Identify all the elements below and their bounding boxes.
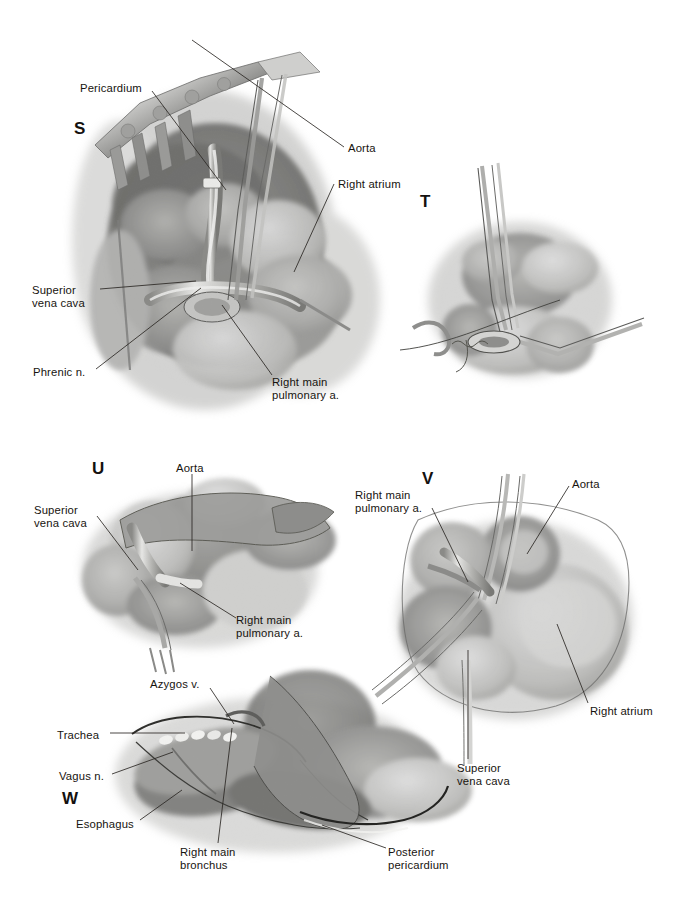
panel-letter-s: S	[74, 120, 86, 137]
label-posterior-pericardium: Posterior pericardium	[388, 846, 449, 872]
label-right-main-pulmonary-artery: Right main pulmonary a.	[355, 489, 422, 515]
label-pericardium: Pericardium	[80, 82, 142, 95]
panel-letter-w: W	[62, 790, 78, 807]
label-aorta: Aorta	[176, 462, 204, 475]
label-superior-vena-cava: Superior vena cava	[34, 504, 87, 530]
panel-t-artwork	[400, 163, 644, 378]
panel-u-artwork	[82, 478, 336, 674]
panel-w-artwork	[115, 670, 472, 853]
label-trachea: Trachea	[57, 729, 99, 742]
label-right-atrium: Right atrium	[338, 178, 401, 191]
label-azygos-vein: Azygos v.	[150, 678, 199, 691]
label-esophagus: Esophagus	[76, 818, 134, 831]
label-superior-vena-cava: Superior vena cava	[457, 762, 510, 788]
panel-letter-u: U	[92, 460, 104, 477]
panel-letter-t: T	[420, 193, 431, 210]
label-aorta: Aorta	[348, 142, 376, 155]
label-vagus-nerve: Vagus n.	[59, 770, 104, 783]
panel-letter-v: V	[422, 470, 434, 487]
label-right-atrium: Right atrium	[590, 705, 653, 718]
illustration-plate: S T U V W PericardiumAortaRight atriumSu…	[0, 0, 683, 924]
label-phrenic-nerve: Phrenic n.	[33, 366, 85, 379]
label-right-main-pulmonary-artery: Right main pulmonary a.	[236, 614, 303, 640]
label-superior-vena-cava: Superior vena cava	[32, 284, 85, 310]
label-right-main-pulmonary-artery: Right main pulmonary a.	[272, 376, 339, 402]
panel-v-artwork	[372, 474, 633, 766]
panel-s-artwork	[72, 52, 380, 410]
label-right-main-bronchus: Right main bronchus	[180, 846, 236, 872]
label-aorta: Aorta	[572, 478, 600, 491]
